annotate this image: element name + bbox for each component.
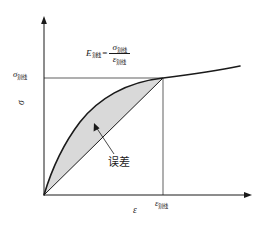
stress-strain-secant-modulus-figure: E割线 = σ割线 ε割线 σ割线 ε割线 σ ε 误差 [0, 0, 268, 228]
error-region-label: 误差 [108, 157, 130, 168]
formula-lhs-subscript: 割线 [92, 53, 102, 58]
secant-modulus-formula: E割线 = σ割线 ε割线 [86, 43, 130, 64]
sigma-secant-subscript: 割线 [17, 74, 27, 80]
x-axis-arrowhead [244, 192, 252, 198]
formula-equals: = [102, 49, 107, 58]
formula-denominator: ε割线 [110, 54, 129, 64]
formula-fraction: σ割线 ε割线 [109, 43, 129, 64]
y-axis-title: σ [17, 100, 27, 105]
x-axis-title: ε [133, 206, 137, 216]
formula-numerator-subscript: 割线 [117, 47, 127, 53]
epsilon-secant-subscript: 割线 [158, 203, 168, 209]
formula-numerator: σ割线 [109, 43, 129, 53]
epsilon-secant-tick-label: ε割线 [155, 199, 168, 208]
y-axis-arrowhead [41, 16, 47, 24]
sigma-secant-tick-label: σ割线 [13, 70, 27, 79]
figure-canvas [0, 0, 268, 228]
secant-line [44, 78, 163, 195]
formula-denominator-subscript: 割线 [116, 59, 126, 65]
